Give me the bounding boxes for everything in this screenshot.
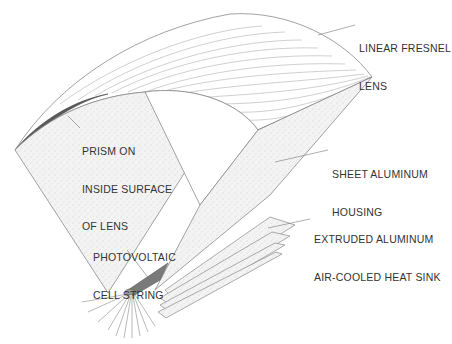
label-line: LINEAR FRESNEL: [359, 42, 451, 55]
leader-fresnel: [318, 25, 355, 35]
label-line: PRISM ON: [82, 145, 172, 158]
label-line: INSIDE SURFACE: [82, 183, 172, 196]
label-pv-cell: PHOTOVOLTAIC CELL STRING: [93, 226, 176, 314]
label-heat-sink: EXTRUDED ALUMINUM AIR-COOLED HEAT SINK: [314, 208, 441, 296]
label-line: AIR-COOLED HEAT SINK: [314, 271, 441, 284]
label-line: LENS: [359, 80, 451, 93]
label-line: CELL STRING: [93, 289, 176, 302]
label-fresnel-lens: LINEAR FRESNEL LENS: [359, 17, 451, 105]
label-line: PHOTOVOLTAIC: [93, 251, 176, 264]
label-line: EXTRUDED ALUMINUM: [314, 233, 441, 246]
label-line: SHEET ALUMINUM: [332, 168, 428, 181]
